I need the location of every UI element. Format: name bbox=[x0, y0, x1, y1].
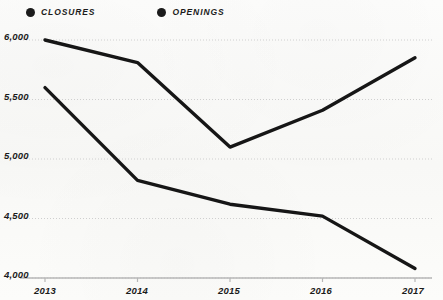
x-axis-label-2014: 2014 bbox=[126, 285, 148, 296]
x-axis-label-2017: 2017 bbox=[402, 285, 424, 296]
legend-item-closures: CLOSURES bbox=[26, 7, 95, 17]
x-axis-label-2013: 2013 bbox=[34, 285, 56, 296]
data-series-group bbox=[45, 40, 415, 268]
legend-marker-circle-icon bbox=[157, 8, 166, 17]
x-axis-label-2015: 2015 bbox=[218, 285, 240, 296]
y-axis-label-5500: 5,500 bbox=[4, 91, 29, 102]
y-axis-label-5000: 5,000 bbox=[4, 150, 29, 161]
legend-marker-circle-icon bbox=[26, 8, 35, 17]
legend-label-closures: CLOSURES bbox=[41, 7, 95, 17]
x-axis-label-2016: 2016 bbox=[310, 285, 332, 296]
series-line-openings bbox=[45, 40, 415, 147]
line-chart-figure: CLOSURES OPENINGS 6,000 5,500 5,000 4,50… bbox=[0, 0, 443, 300]
y-axis-label-6000: 6,000 bbox=[4, 31, 29, 42]
y-axis-label-4000: 4,000 bbox=[4, 269, 29, 280]
chart-legend: CLOSURES OPENINGS bbox=[26, 7, 225, 17]
y-axis-label-4500: 4,500 bbox=[4, 210, 29, 221]
plot-area bbox=[0, 0, 443, 300]
series-line-closures bbox=[45, 88, 415, 269]
legend-label-openings: OPENINGS bbox=[172, 7, 224, 17]
legend-item-openings: OPENINGS bbox=[157, 7, 224, 17]
